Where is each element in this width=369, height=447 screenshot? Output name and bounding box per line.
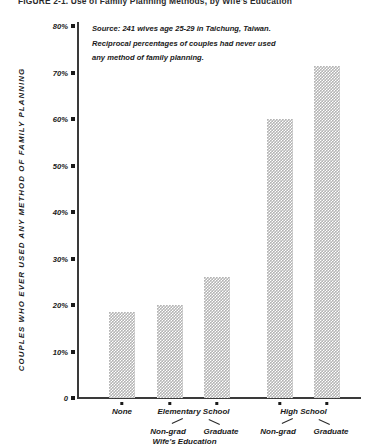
- x-axis-tick: [215, 402, 218, 405]
- y-axis-tick-label: 50%: [24, 161, 68, 170]
- label-leader-line: [209, 419, 220, 425]
- y-axis-tick-label: 60%: [24, 115, 68, 124]
- x-axis-sublabel-high-school-non-grad: Non-grad: [260, 427, 296, 436]
- bar: [204, 277, 230, 398]
- y-axis-tick: [71, 71, 75, 75]
- x-axis-title: Wife's Education: [0, 437, 369, 446]
- y-axis-tick: [71, 257, 75, 261]
- figure-title: FIGURE 2-1. Use of Family Planning Metho…: [18, 0, 369, 8]
- y-axis-tick: [71, 350, 75, 354]
- y-axis-tick-label: 40%: [24, 208, 68, 217]
- bar: [314, 66, 340, 398]
- y-axis-tick: [71, 117, 75, 121]
- x-axis-sublabel-elementary-non-grad: Non-grad: [150, 427, 186, 436]
- y-axis-tick-label: 80%: [24, 22, 68, 31]
- bar: [109, 312, 135, 398]
- x-axis-label-elementary-school: Elementary School: [157, 407, 229, 416]
- y-axis-tick-label: 0: [24, 394, 68, 403]
- x-axis-sublabel-high-school-graduate: Graduate: [313, 427, 348, 436]
- y-axis-tick: [71, 303, 75, 307]
- y-axis-tick-label: 20%: [24, 301, 68, 310]
- x-axis-tick: [325, 402, 328, 405]
- y-axis-tick: [71, 210, 75, 214]
- y-axis-title: COUPLES WHO EVER USED ANY METHOD OF FAMI…: [17, 40, 26, 400]
- x-axis-tick: [278, 402, 281, 405]
- label-leader-line: [319, 419, 330, 425]
- bar: [157, 305, 183, 398]
- y-axis-tick: [71, 396, 75, 400]
- y-axis-tick-label: 70%: [24, 68, 68, 77]
- bar-series: [77, 22, 361, 398]
- x-axis-tick: [120, 402, 123, 405]
- x-axis-label-none: None: [112, 407, 132, 416]
- y-axis-tick: [71, 164, 75, 168]
- y-axis-tick-label: 10%: [24, 347, 68, 356]
- y-axis-tick-label: 30%: [24, 254, 68, 263]
- label-leader-line: [282, 418, 293, 424]
- bar: [267, 119, 293, 398]
- x-axis-tick: [168, 402, 171, 405]
- x-axis-sublabel-elementary-graduate: Graduate: [203, 427, 238, 436]
- label-leader-line: [172, 418, 183, 424]
- x-axis-label-high-school: High School: [280, 407, 327, 416]
- y-axis-tick: [71, 24, 75, 28]
